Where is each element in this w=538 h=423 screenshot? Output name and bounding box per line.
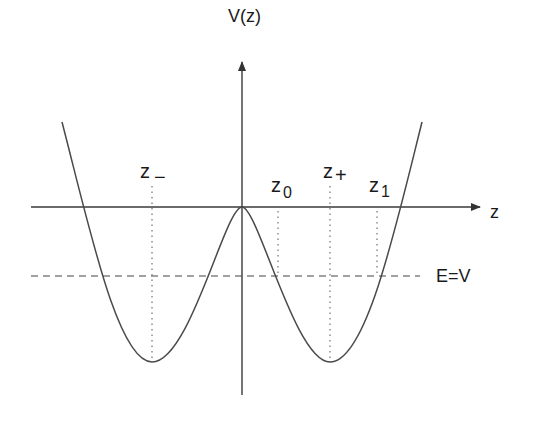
z-plus-label: z+: [323, 160, 347, 186]
z-zero-label: z0: [271, 174, 292, 201]
z-axis-label: z: [490, 202, 499, 222]
z-one-label: z1: [369, 174, 390, 200]
v-axis-label: V(z): [228, 6, 261, 26]
energy-label: E=V: [436, 266, 471, 286]
double-well-potential-diagram: V(z) z z− z0 z+ z1 E=V: [0, 0, 538, 423]
z-minus-label: z−: [140, 160, 166, 188]
